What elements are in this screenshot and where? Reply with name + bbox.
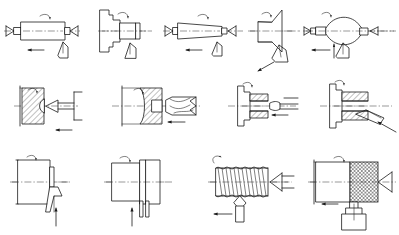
- operation-thread-cutting: Thread cutting: [208, 156, 294, 222]
- cutting-tool: [212, 42, 222, 56]
- operation-knurling: Knurling: [308, 156, 396, 230]
- feed-arrow: [378, 122, 396, 132]
- machining-operations-figure: Straight turning Shoulder / step turning: [0, 0, 399, 235]
- rotation-arrow: [40, 14, 50, 19]
- reamer-tool: [270, 98, 298, 111]
- cutting-tool: [125, 43, 136, 58]
- operation-facing: Facing: [10, 155, 72, 226]
- operation-form-turning: Form (contour) turning: [303, 12, 396, 58]
- rotation-arrow: [27, 155, 36, 160]
- rotation-arrow: [120, 156, 130, 162]
- rotation-arrow: [213, 156, 221, 163]
- operation-internal-boring: Boring (internal turning): [14, 86, 82, 130]
- operation-internal-grooving: Internal grooving / recessing: [320, 80, 396, 132]
- feed-arrow: [258, 62, 274, 71]
- cutting-tool: [58, 42, 68, 58]
- operation-straight-turning: Straight turning: [4, 14, 80, 58]
- rotation-arrow: [322, 12, 331, 17]
- threading-tool: [234, 196, 246, 222]
- rotation-arrow: [198, 14, 208, 19]
- operation-drilling: Drilling: [112, 86, 200, 126]
- operation-internal-reaming: Reaming / internal finishing: [228, 82, 298, 126]
- operation-chamfer-turning: Chamfering / angle turning: [248, 10, 300, 71]
- diagram-canvas: Straight turning Shoulder / step turning: [0, 0, 399, 235]
- rotation-arrow: [118, 12, 128, 18]
- operation-shoulder-turning: Shoulder / step turning: [98, 10, 152, 58]
- operation-taper-turning: Taper turning: [163, 14, 243, 56]
- rotation-arrow: [262, 12, 271, 17]
- knurling-tool: [342, 202, 366, 230]
- form-tool: [336, 43, 349, 58]
- twist-drill: [166, 97, 196, 115]
- operation-parting-off: Parting off / cut-off: [104, 156, 172, 226]
- rotation-arrow: [334, 156, 344, 162]
